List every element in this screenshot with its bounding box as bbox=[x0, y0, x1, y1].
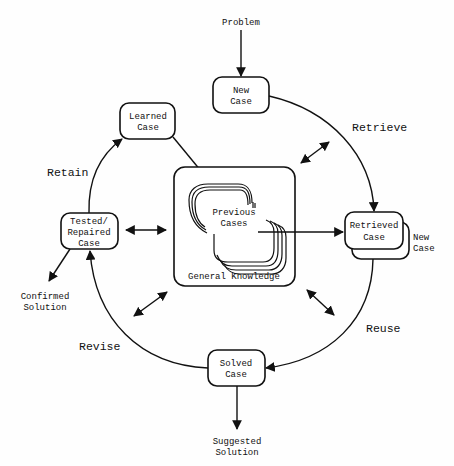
confirmed-arrow bbox=[49, 249, 70, 281]
svg-text:Case: Case bbox=[230, 97, 252, 107]
svg-text:Solved: Solved bbox=[220, 359, 252, 369]
process-retain-label: Retain bbox=[47, 166, 88, 179]
double-arrow-retrieve bbox=[301, 142, 329, 163]
node-learned-case: Learned Case bbox=[120, 103, 175, 139]
svg-text:Case: Case bbox=[137, 123, 159, 133]
node-new-case: New Case bbox=[213, 77, 269, 113]
previous-cases-label-2: Cases bbox=[220, 219, 247, 229]
svg-text:Learned: Learned bbox=[129, 112, 167, 122]
svg-text:Repaired: Repaired bbox=[67, 228, 110, 238]
svg-text:Retrieved: Retrieved bbox=[350, 221, 399, 231]
node-tested-repaired-case: Tested/ Repaired Case bbox=[61, 213, 118, 249]
svg-text:New: New bbox=[413, 233, 430, 243]
suggested-solution-label: Suggested bbox=[213, 437, 262, 447]
previous-cases-label: Previous bbox=[212, 208, 255, 218]
process-revise-label: Revise bbox=[79, 340, 121, 353]
svg-text:Case: Case bbox=[78, 239, 100, 249]
double-arrow-revise bbox=[134, 292, 167, 316]
svg-text:Case: Case bbox=[363, 233, 385, 243]
suggested-solution-label-2: Solution bbox=[215, 448, 258, 458]
svg-text:New: New bbox=[233, 86, 250, 96]
node-solved-case: Solved Case bbox=[208, 350, 265, 386]
svg-text:Case: Case bbox=[413, 244, 435, 254]
svg-text:Tested/: Tested/ bbox=[70, 217, 108, 227]
process-retrieve-label: Retrieve bbox=[352, 121, 407, 134]
node-retrieved-case: Retrieved Case New Case bbox=[345, 212, 435, 259]
cbr-cycle-diagram: Problem New Case Retrieve Retrieved Case… bbox=[0, 0, 454, 466]
double-arrow-reuse bbox=[307, 290, 334, 315]
svg-text:Case: Case bbox=[225, 370, 247, 380]
process-reuse-label: Reuse bbox=[366, 322, 401, 335]
problem-label: Problem bbox=[222, 18, 260, 28]
retain-arc bbox=[89, 139, 122, 213]
confirmed-solution-label-2: Solution bbox=[23, 303, 66, 313]
confirmed-solution-label: Confirmed bbox=[21, 292, 70, 302]
